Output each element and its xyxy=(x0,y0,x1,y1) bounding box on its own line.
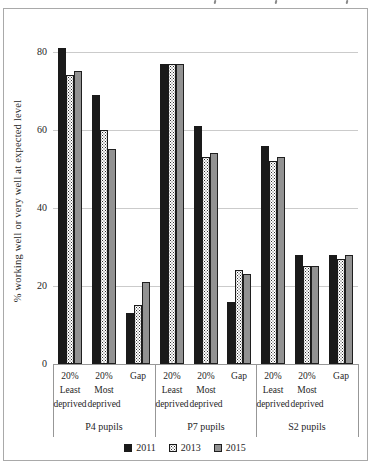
cropped-text-mark xyxy=(214,0,217,4)
bar-2015-g2-c0 xyxy=(277,157,285,364)
bar-2013-g1-c1 xyxy=(202,157,210,364)
bar-2015-g0-c0 xyxy=(74,71,82,364)
bar-2011-g2-c2 xyxy=(329,255,337,364)
bar-2015-g1-c2 xyxy=(243,274,251,364)
bar-2011-g2-c1 xyxy=(295,255,303,364)
y-axis-title: % working well or very well at expected … xyxy=(12,51,26,351)
group-label-S2: S2 pupils xyxy=(262,420,352,433)
bar-2013-g2-c2 xyxy=(337,259,345,364)
bar-chart-figure: % working well or very well at expected … xyxy=(0,0,371,471)
bar-2015-g2-c2 xyxy=(345,255,353,364)
bar-2015-g2-c1 xyxy=(311,266,319,364)
group-label-P7: P7 pupils xyxy=(161,420,251,433)
bar-2013-g1-c0 xyxy=(168,64,176,364)
legend-item-2013: 2013 xyxy=(169,442,201,454)
y-tick-label-80: 80 xyxy=(17,46,47,58)
bar-2015-g0-c1 xyxy=(108,149,116,364)
bar-2013-g0-c0 xyxy=(66,75,74,364)
category-label-line: deprived xyxy=(284,397,330,411)
category-label-line: Most xyxy=(81,383,127,397)
y-tick-label-0: 0 xyxy=(17,358,47,370)
x-axis-line xyxy=(53,364,358,365)
legend-swatch-2015 xyxy=(214,444,222,452)
bar-2013-g2-c0 xyxy=(269,161,277,364)
bar-2015-g0-c2 xyxy=(142,282,150,364)
bar-2013-g0-c1 xyxy=(100,130,108,364)
category-label-line: Gap xyxy=(318,369,364,383)
legend-label: 2011 xyxy=(136,442,156,454)
y-tick-label-40: 40 xyxy=(17,202,47,214)
bar-2011-g1-c2 xyxy=(227,302,235,364)
legend-item-2011: 2011 xyxy=(124,442,156,454)
category-label-line: Most xyxy=(284,383,330,397)
bar-2013-g0-c2 xyxy=(134,305,142,364)
category-label: Gap xyxy=(318,369,364,383)
legend-label: 2015 xyxy=(226,442,246,454)
bar-2013-g1-c2 xyxy=(235,270,243,364)
group-label-P4: P4 pupils xyxy=(59,420,149,433)
category-label-line: deprived xyxy=(81,397,127,411)
bar-2011-g0-c2 xyxy=(126,313,134,364)
bar-2011-g0-c1 xyxy=(92,95,100,364)
legend-label: 2013 xyxy=(181,442,201,454)
bar-2011-g2-c0 xyxy=(261,146,269,364)
category-label-line: deprived xyxy=(183,397,229,411)
bar-2011-g1-c1 xyxy=(194,126,202,364)
bar-2013-g2-c1 xyxy=(303,266,311,364)
cropped-text-mark xyxy=(346,0,349,4)
gridline-80 xyxy=(53,52,358,53)
legend-swatch-2013 xyxy=(169,444,177,452)
legend: 201120132015 xyxy=(3,440,367,455)
category-label-line: Most xyxy=(183,383,229,397)
bar-2011-g1-c0 xyxy=(160,64,168,364)
y-tick-label-60: 60 xyxy=(17,124,47,136)
bar-2011-g0-c0 xyxy=(58,48,66,364)
legend-swatch-2011 xyxy=(124,444,132,452)
y-tick-label-20: 20 xyxy=(17,280,47,292)
bar-2015-g1-c0 xyxy=(176,64,184,364)
cropped-text-mark xyxy=(275,0,278,4)
legend-item-2015: 2015 xyxy=(214,442,246,454)
bar-2015-g1-c1 xyxy=(210,153,218,364)
